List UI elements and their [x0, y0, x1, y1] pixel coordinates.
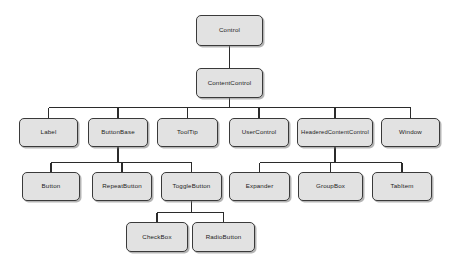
class-node-tooltip[interactable]: ToolTip — [157, 118, 218, 147]
class-node-button[interactable]: Button — [22, 172, 80, 201]
class-node-label: Label — [41, 129, 57, 135]
class-node-label: RepeatButton — [102, 183, 142, 189]
class-node-label: ButtonBase — [101, 129, 135, 135]
class-node-label: UserControl — [242, 129, 277, 135]
class-node-window[interactable]: Window — [381, 118, 440, 147]
class-hierarchy-diagram: ControlContentControlLabelButtonBaseTool… — [0, 0, 460, 267]
class-node-tabitem[interactable]: TabItem — [372, 172, 432, 201]
class-node-label: Control — [219, 27, 240, 33]
class-node-groupbox[interactable]: GroupBox — [298, 172, 363, 201]
class-node-label: ToolTip — [177, 129, 198, 135]
class-node-label[interactable]: Label — [19, 118, 78, 147]
class-node-buttonbase[interactable]: ButtonBase — [88, 118, 148, 147]
class-node-radiobutton[interactable]: RadioButton — [192, 222, 255, 252]
class-node-checkbox[interactable]: CheckBox — [126, 222, 188, 252]
class-node-label: GroupBox — [316, 183, 345, 189]
class-node-togglebutton[interactable]: ToggleButton — [161, 172, 222, 201]
class-node-label: CheckBox — [142, 234, 171, 240]
class-node-label: Button — [42, 183, 61, 189]
class-node-label: Window — [399, 129, 422, 135]
class-node-headeredcontentcontrol[interactable]: HeaderedContentControl — [297, 118, 373, 147]
class-node-control[interactable]: Control — [196, 15, 263, 46]
class-node-expander[interactable]: Expander — [229, 172, 290, 201]
class-node-label: ContentControl — [208, 80, 252, 86]
class-node-repeatbutton[interactable]: RepeatButton — [92, 172, 152, 201]
class-node-contentcontrol[interactable]: ContentControl — [196, 68, 263, 98]
class-node-label: RadioButton — [206, 234, 242, 240]
class-node-label: Expander — [246, 183, 274, 189]
class-node-label: HeaderedContentControl — [301, 130, 369, 136]
class-node-usercontrol[interactable]: UserControl — [229, 118, 289, 147]
class-node-label: ToggleButton — [173, 183, 211, 189]
class-node-label: TabItem — [390, 183, 413, 189]
